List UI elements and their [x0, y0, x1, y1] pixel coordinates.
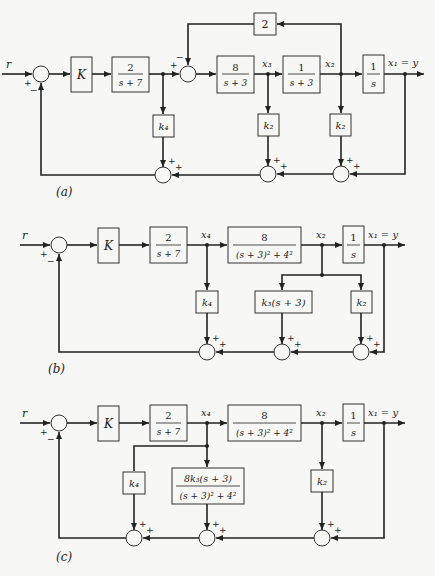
- diagram-a: r + − K 2 s + 7 + − 8 s + 3 x₃ 1 s + 3 x…: [2, 13, 424, 199]
- svg-text:x₂: x₂: [325, 58, 335, 69]
- svg-text:k₄: k₄: [129, 478, 139, 489]
- svg-text:+: +: [280, 161, 288, 171]
- svg-text:s: s: [351, 427, 356, 438]
- svg-text:1: 1: [350, 410, 356, 421]
- svg-text:k₂: k₂: [335, 120, 345, 131]
- svg-text:x₂: x₂: [316, 229, 326, 240]
- svg-text:+: +: [373, 339, 381, 349]
- svg-text:8k₃(s + 3): 8k₃(s + 3): [184, 473, 232, 484]
- svg-text:r: r: [22, 229, 28, 242]
- summing-junction: [51, 415, 67, 431]
- svg-text:s + 7: s + 7: [157, 427, 181, 437]
- svg-text:2: 2: [165, 232, 171, 243]
- svg-text:x₃: x₃: [262, 58, 272, 69]
- svg-text:s + 7: s + 7: [119, 78, 143, 88]
- block-diagrams: r + − K 2 s + 7 + − 8 s + 3 x₃ 1 s + 3 x…: [0, 0, 435, 576]
- svg-text:(s + 3)² + 4²: (s + 3)² + 4²: [236, 250, 293, 260]
- svg-text:+: +: [353, 161, 361, 171]
- svg-text:+: +: [219, 339, 227, 349]
- svg-text:x₄: x₄: [201, 407, 211, 418]
- svg-text:2: 2: [165, 410, 171, 421]
- svg-text:k₂: k₂: [356, 297, 366, 308]
- summing-junction: [274, 344, 290, 360]
- svg-text:k₄: k₄: [202, 297, 212, 308]
- caption-b: (b): [48, 362, 65, 376]
- svg-text:k₃(s + 3): k₃(s + 3): [261, 297, 305, 308]
- summing-junction: [33, 66, 49, 82]
- summing-junction: [260, 166, 276, 182]
- summing-junction: [51, 237, 67, 253]
- svg-text:x₁ = y: x₁ = y: [368, 229, 398, 240]
- svg-text:s + 7: s + 7: [157, 249, 181, 259]
- svg-text:K: K: [103, 417, 114, 431]
- svg-text:1: 1: [370, 61, 376, 72]
- svg-text:x₂: x₂: [316, 407, 326, 418]
- svg-text:+: +: [294, 339, 302, 349]
- svg-text:K: K: [103, 239, 114, 253]
- svg-text:+: +: [175, 162, 183, 172]
- caption-a: (a): [56, 185, 73, 199]
- svg-text:x₄: x₄: [201, 229, 211, 240]
- svg-text:(s + 3)² + 4²: (s + 3)² + 4²: [180, 491, 237, 501]
- svg-text:(s + 3)² + 4²: (s + 3)² + 4²: [236, 428, 293, 438]
- diagram-c: r + − K 2 s + 7 x₄ 8 (s + 3)² + 4² x₂ 1 …: [20, 404, 405, 564]
- summing-junction: [155, 167, 171, 183]
- svg-text:K: K: [76, 68, 87, 82]
- summing-junction: [314, 530, 330, 546]
- svg-text:k₂: k₂: [263, 120, 273, 131]
- svg-text:+: +: [334, 525, 342, 535]
- svg-text:−: −: [176, 52, 184, 62]
- summing-junction: [180, 66, 196, 82]
- svg-text:r: r: [22, 407, 28, 420]
- svg-text:k₂: k₂: [317, 476, 327, 487]
- svg-text:+: +: [219, 525, 227, 535]
- summing-junction: [126, 530, 142, 546]
- svg-text:2: 2: [127, 62, 133, 73]
- svg-text:s: s: [351, 249, 356, 260]
- svg-text:2: 2: [262, 18, 269, 31]
- svg-text:s: s: [371, 78, 376, 89]
- input-label: r: [6, 58, 12, 71]
- svg-text:−: −: [47, 256, 55, 266]
- svg-text:s + 3: s + 3: [224, 78, 248, 88]
- svg-text:−: −: [30, 85, 38, 95]
- svg-text:−: −: [47, 434, 55, 444]
- svg-text:1: 1: [350, 232, 356, 243]
- svg-text:8: 8: [232, 62, 238, 73]
- svg-text:k₄: k₄: [158, 121, 168, 132]
- summing-junction: [353, 344, 369, 360]
- svg-text:x₁ = y: x₁ = y: [368, 407, 398, 418]
- svg-text:8: 8: [261, 232, 267, 243]
- svg-text:+: +: [146, 525, 154, 535]
- diagram-b: r + − K 2 s + 7 x₄ 8 (s + 3)² + 4² x₂ 1 …: [20, 226, 405, 376]
- summing-junction: [199, 530, 215, 546]
- summing-junction: [199, 344, 215, 360]
- svg-text:8: 8: [261, 410, 267, 421]
- svg-text:x₁ = y: x₁ = y: [388, 57, 418, 68]
- caption-c: (c): [56, 550, 72, 564]
- summing-junction: [333, 166, 349, 182]
- svg-text:1: 1: [298, 62, 304, 73]
- svg-text:s + 3: s + 3: [290, 78, 314, 88]
